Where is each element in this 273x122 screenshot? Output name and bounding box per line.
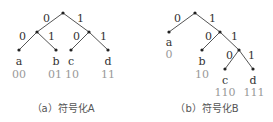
edge-label: 0: [73, 30, 80, 43]
leaf-code: 10: [65, 68, 79, 81]
leaf-node: [17, 48, 20, 51]
internal-node: [218, 30, 221, 33]
leaf-node: [251, 67, 254, 70]
leaf-node: [223, 67, 226, 70]
leaf-symbol: b: [52, 55, 59, 68]
leaf-symbol: d: [104, 55, 111, 68]
leaf-node: [69, 48, 72, 51]
edge-label: 0: [174, 12, 181, 25]
edge-label: 1: [231, 30, 238, 43]
leaf-code: 01: [48, 68, 62, 81]
tree-b: 0 1 0 1 0 1 a 0 b 10 c 110 d 111 （b）符号化B: [166, 11, 265, 114]
edge-label: 0: [43, 12, 50, 25]
internal-node: [237, 48, 240, 51]
edge-label: 1: [100, 30, 107, 43]
edge-label: 1: [209, 12, 216, 25]
leaf-node: [200, 48, 203, 51]
coding-trees-figure: 0 1 0 1 0 1 a b c d 00 01 10 11 （a）符号化A …: [0, 0, 273, 122]
edge-label: 0: [226, 49, 233, 62]
leaf-code: 00: [12, 68, 26, 81]
edge-label: 0: [19, 30, 26, 43]
leaf-code: 0: [166, 48, 173, 61]
leaf-code: 110: [215, 86, 236, 99]
edge-label: 1: [77, 12, 84, 25]
internal-node: [35, 30, 38, 33]
edge: [169, 13, 195, 32]
caption-a: （a）符号化A: [32, 102, 95, 114]
leaf-code: 10: [195, 68, 209, 81]
tree-a: 0 1 0 1 0 1 a b c d 00 01 10 11 （a）符号化A: [12, 11, 115, 114]
caption-b: （b）符号化B: [175, 102, 238, 114]
leaf-code: 111: [244, 86, 265, 99]
leaf-symbol: c: [68, 55, 74, 68]
internal-node: [87, 30, 90, 33]
root-node: [193, 11, 196, 14]
edge-label: 1: [48, 30, 55, 43]
leaf-node: [54, 48, 57, 51]
leaf-node: [106, 48, 109, 51]
leaf-symbol: a: [16, 55, 23, 68]
edge-label: 1: [248, 49, 255, 62]
root-node: [61, 11, 64, 14]
leaf-code: 11: [101, 68, 115, 81]
leaf-node: [167, 30, 170, 33]
leaf-symbol: b: [198, 55, 205, 68]
edge-label: 0: [205, 30, 212, 43]
